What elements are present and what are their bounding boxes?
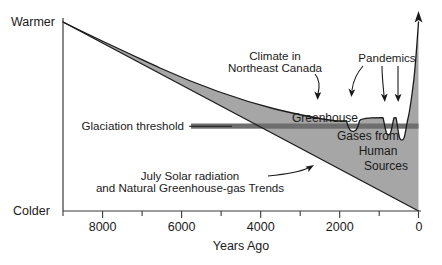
chart-svg: 8000 6000 4000 2000 0 Years Ago Warmer C… <box>0 0 442 265</box>
shaded-region-label-sources: Sources <box>364 159 408 173</box>
solar-annotation-line2: and Natural Greenhouse-gas Trends <box>96 181 284 194</box>
x-tick-label-6000: 6000 <box>168 220 196 234</box>
climate-annotation-line2: Northeast Canada <box>228 61 323 74</box>
shaded-region-label-greenhouse: Greenhouse <box>292 111 358 125</box>
pandemics-leader-2 <box>382 66 384 95</box>
y-axis-label-warmer: Warmer <box>11 15 55 29</box>
shaded-region-label-gases-from: Gases from <box>337 129 399 143</box>
pandemics-annotation-label: Pandemics <box>358 51 416 64</box>
pandemics-leader-1 <box>352 66 363 90</box>
pandemics-arrowhead-3 <box>395 94 402 102</box>
x-tick-label-0: 0 <box>416 220 423 234</box>
present-day-spike-arrowhead <box>415 11 423 23</box>
x-tick-label-4000: 4000 <box>247 220 275 234</box>
solar-annotation-leader <box>268 168 308 176</box>
x-axis-major-ticks <box>103 211 419 218</box>
x-tick-label-8000: 8000 <box>89 220 117 234</box>
x-axis-minor-ticks <box>63 211 379 216</box>
x-axis-title: Years Ago <box>213 239 270 253</box>
climate-chart-figure: 8000 6000 4000 2000 0 Years Ago Warmer C… <box>0 0 442 265</box>
y-axis-label-colder: Colder <box>13 204 50 218</box>
x-tick-label-2000: 2000 <box>326 220 354 234</box>
glaciation-threshold-label: Glaciation threshold <box>82 119 184 132</box>
shaded-region-label-human: Human <box>359 144 398 158</box>
climate-annotation-leader <box>315 74 319 94</box>
